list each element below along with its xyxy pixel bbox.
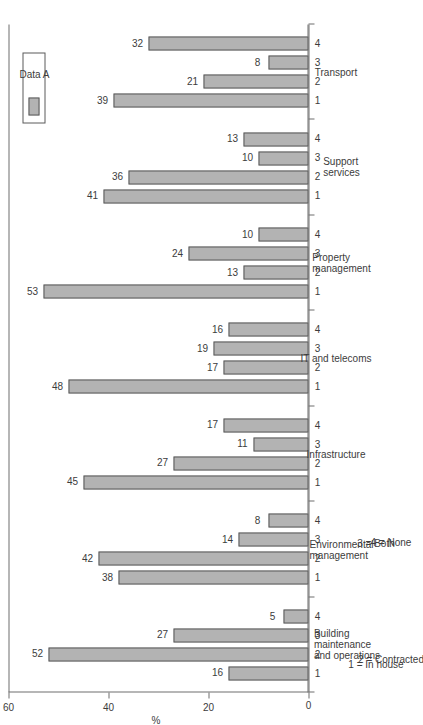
bar	[253, 437, 308, 451]
key-line-4: 4 = None	[385, 521, 396, 562]
value-tick-20	[208, 692, 209, 698]
bar-value-label: 53	[27, 284, 37, 298]
key-line-2: 2 = Contracted	[385, 626, 396, 692]
bar-value-label: 19	[197, 342, 207, 356]
bar-value-label: 17	[207, 418, 217, 432]
category-number-text: 4	[314, 515, 320, 525]
bar-value-text: 19	[196, 344, 207, 354]
group-label: Transport	[330, 22, 341, 122]
value-tick-0	[308, 692, 309, 698]
bar	[118, 570, 308, 584]
category-number: 1	[312, 380, 322, 394]
category-number: 4	[312, 513, 322, 527]
group-label-line: services	[323, 167, 360, 178]
bar-value-text: 8	[254, 515, 260, 525]
group-label-line: management	[312, 263, 370, 274]
bar-value-label: 11	[237, 437, 247, 451]
value-tick-label-text: 20	[202, 703, 213, 713]
key-column-left: 1 = In house 2 = Contracted	[370, 626, 396, 692]
group-label-line: IT and telecoms	[300, 353, 371, 364]
bar	[243, 132, 308, 146]
bar	[128, 170, 308, 184]
bar-value-text: 52	[31, 649, 42, 659]
value-tick-label-text: 40	[102, 703, 113, 713]
bar	[243, 265, 308, 279]
legend-swatch-data-a	[28, 97, 39, 115]
category-number-text: 4	[314, 325, 320, 335]
group-separator-tick	[308, 405, 314, 406]
bar	[48, 647, 308, 661]
bar-value-label: 14	[222, 532, 232, 546]
bar-value-text: 13	[226, 267, 237, 277]
category-number-text: 4	[314, 38, 320, 48]
bar	[283, 609, 308, 623]
bar-value-text: 45	[66, 477, 77, 487]
value-tick-label-text: 0	[305, 700, 311, 710]
bar-value-label: 32	[132, 36, 142, 50]
bar-value-text: 32	[131, 38, 142, 48]
bar-value-label: 8	[252, 513, 262, 527]
bar-value-text: 17	[206, 420, 217, 430]
bar-value-text: 5	[269, 611, 275, 621]
category-number: 1	[312, 284, 322, 298]
bar-value-label: 36	[112, 170, 122, 184]
value-tick-label-0: 0	[303, 702, 313, 724]
bar	[83, 475, 308, 489]
category-number: 4	[312, 132, 322, 146]
value-tick-label-20: 20	[203, 702, 213, 724]
category-number: 1	[312, 93, 322, 107]
category-number: 4	[312, 418, 322, 432]
bar-value-label: 21	[187, 74, 197, 88]
bar	[173, 456, 308, 470]
category-number: 4	[312, 36, 322, 50]
category-number-text: 1	[314, 572, 320, 582]
group-label-rot: Supportservices	[323, 156, 360, 178]
bar	[228, 323, 308, 337]
group-label-rot: Propertymanagement	[312, 252, 370, 274]
group-label: Infrastructure	[330, 403, 341, 503]
bar-value-label: 27	[157, 456, 167, 470]
category-number-text: 1	[314, 95, 320, 105]
category-number: 1	[312, 666, 322, 680]
chart-legend: Data A	[22, 52, 45, 123]
category-number-text: 4	[314, 420, 320, 430]
bar-value-label: 52	[32, 647, 42, 661]
bar-value-label: 27	[157, 628, 167, 642]
group-separator-tick	[308, 214, 314, 215]
bar	[113, 93, 308, 107]
bar-value-label: 17	[207, 361, 217, 375]
group-separator-tick-end	[308, 23, 314, 24]
bar-value-text: 36	[111, 172, 122, 182]
bar	[173, 628, 308, 642]
value-tick-label-text: 60	[2, 703, 13, 713]
bar	[68, 380, 308, 394]
bar-value-label: 10	[242, 227, 252, 241]
group-label-line: Transport	[314, 66, 356, 77]
plot-area	[8, 24, 308, 692]
group-label: Supportservices	[330, 117, 352, 217]
category-number-text: 4	[314, 134, 320, 144]
category-number-text: 3	[314, 153, 320, 163]
group-label: Buildingmaintenanceand operations	[330, 594, 363, 694]
group-label-line: Support	[323, 156, 360, 167]
bar	[228, 666, 308, 680]
bar-value-text: 10	[241, 153, 252, 163]
group-label-rot: Transport	[314, 66, 356, 77]
bar-value-text: 27	[156, 458, 167, 468]
bar-value-label: 48	[52, 380, 62, 394]
legend-label-data-a: Data A	[29, 60, 39, 90]
group-label-rot: IT and telecoms	[300, 353, 371, 364]
bar	[268, 513, 308, 527]
value-tick-60	[8, 692, 9, 698]
bar-value-label: 42	[82, 551, 92, 565]
group-separator-tick	[308, 691, 314, 692]
bar-value-label: 13	[227, 265, 237, 279]
bar-value-text: 27	[156, 630, 167, 640]
bar	[223, 418, 308, 432]
bar-value-text: 42	[81, 553, 92, 563]
group-label: IT and telecoms	[330, 308, 341, 408]
group-label-line: Infrastructure	[306, 448, 365, 459]
bar	[258, 227, 308, 241]
